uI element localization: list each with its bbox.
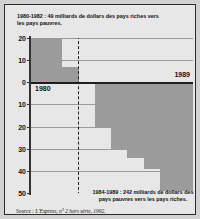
y-tick-label: 0 <box>22 79 26 86</box>
chart-bar <box>160 82 177 191</box>
source-line: Source : L'Express, n° 2 hors série, 199… <box>16 208 196 214</box>
caption-top: 1980-1982 : 49 milliards de dollars des … <box>17 13 167 26</box>
chart-bar <box>177 82 193 191</box>
y-tick-label: 50 <box>18 190 26 197</box>
chart-bar <box>29 38 46 82</box>
chart-bar <box>127 82 144 157</box>
chart-bar <box>95 82 112 126</box>
chart-bar <box>111 82 128 148</box>
annotation-1980: 1980 <box>35 85 51 92</box>
y-tick <box>27 193 31 194</box>
chart-canvas <box>29 38 193 193</box>
y-tick <box>27 82 31 83</box>
caption-bottom: 1984-1989 : 242 milliards de dollars des… <box>87 189 199 202</box>
y-tick-label: 10 <box>18 101 26 108</box>
y-tick-label: 30 <box>18 145 26 152</box>
y-tick-label: 40 <box>18 167 26 174</box>
chart-bar <box>144 82 161 168</box>
y-tick <box>27 60 31 61</box>
annotation-1989: 1989 <box>174 71 190 78</box>
zero-line <box>29 82 193 84</box>
y-tick <box>27 171 31 172</box>
chart-bar <box>62 67 79 83</box>
y-tick-label: 20 <box>18 35 26 42</box>
figure-frame: 1980-1982 : 49 milliards de dollars des … <box>4 4 196 215</box>
y-tick <box>27 104 31 105</box>
y-tick <box>27 127 31 128</box>
figure-container: 1980-1982 : 49 milliards de dollars des … <box>0 0 200 219</box>
y-tick-label: 20 <box>18 123 26 130</box>
chart-bar <box>45 38 62 82</box>
y-tick <box>27 149 31 150</box>
dashed-marker <box>78 38 79 193</box>
chart-plot-area: 201001020304050 1980 1989 <box>29 38 193 193</box>
y-tick-label: 10 <box>18 57 26 64</box>
y-tick <box>27 38 31 39</box>
